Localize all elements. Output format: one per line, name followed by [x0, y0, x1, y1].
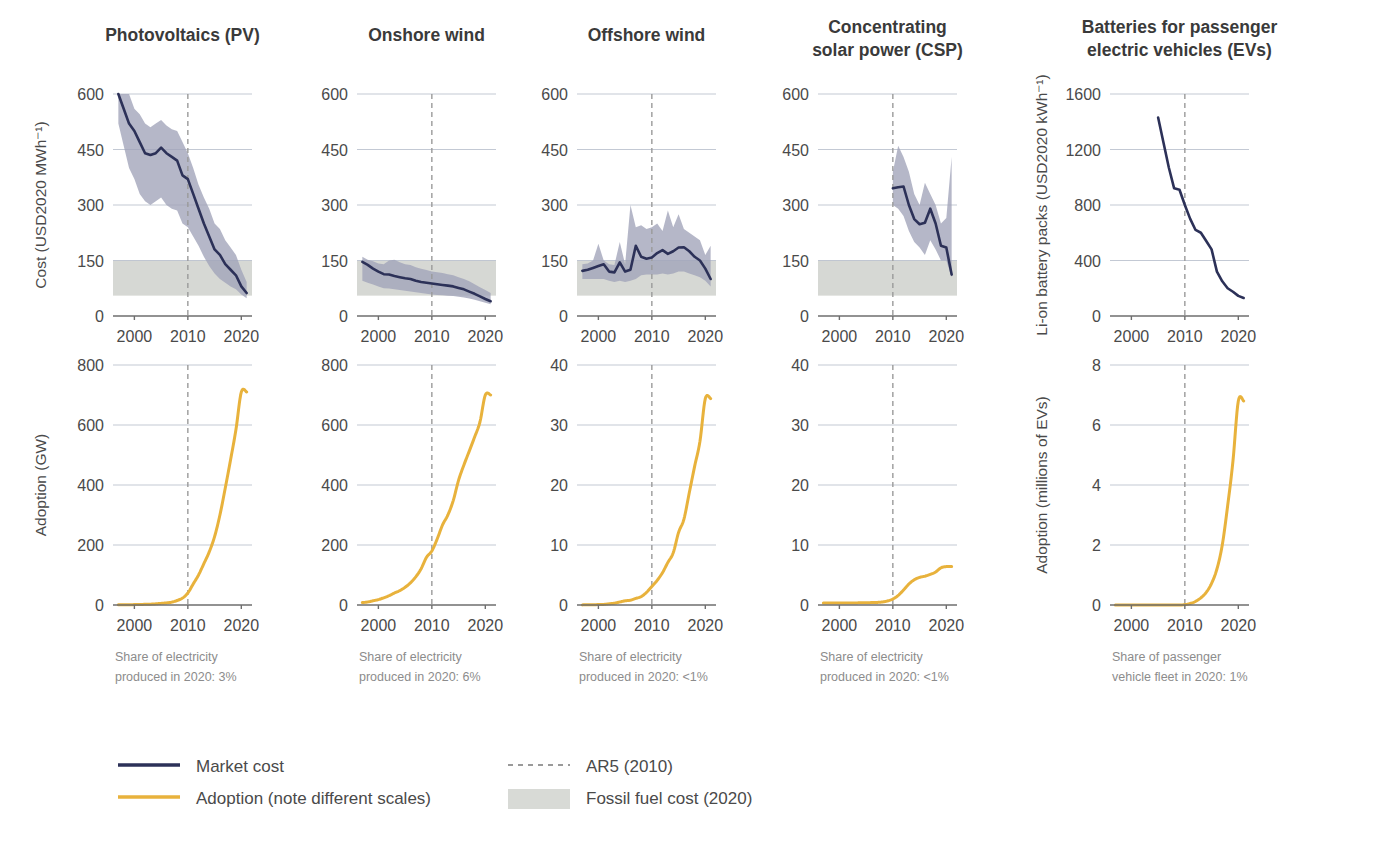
- multi-panel-chart: Photovoltaics (PV)2000201020200150300450…: [0, 0, 1373, 851]
- y-tick-label-adoption: 2: [1092, 537, 1101, 554]
- x-tick-label-cost: 2010: [634, 328, 670, 345]
- y-tick-label-cost: 600: [541, 86, 568, 103]
- cost-chart-pv: 2000201020200150300450600: [77, 86, 259, 345]
- y-tick-label-cost: 0: [339, 308, 348, 325]
- legend-label-market-cost: Market cost: [196, 757, 284, 776]
- panel-footnote-line2: produced in 2020: 3%: [115, 670, 237, 684]
- panel-title-csp-line2: solar power (CSP): [812, 40, 963, 60]
- y-tick-label-adoption: 600: [321, 417, 348, 434]
- x-tick-label-cost: 2000: [581, 328, 617, 345]
- y-tick-label-cost: 0: [1092, 308, 1101, 325]
- y-tick-label-adoption: 20: [791, 477, 809, 494]
- y-tick-label-adoption: 0: [339, 597, 348, 614]
- panel-title-csp: Concentrating: [828, 17, 947, 37]
- legend: Market costAdoption (note different scal…: [118, 757, 752, 809]
- y-tick-label-cost: 0: [95, 308, 104, 325]
- x-tick-label-adoption: 2010: [1167, 617, 1203, 634]
- legend-item-adoption: Adoption (note different scales): [118, 789, 431, 808]
- x-tick-label-adoption: 2020: [1221, 617, 1257, 634]
- y-tick-label-cost: 800: [1074, 197, 1101, 214]
- panel-title-ev-batteries-line2: electric vehicles (EVs): [1087, 40, 1272, 60]
- y-tick-label-adoption: 0: [559, 597, 568, 614]
- adoption-chart-onshore-wind: 2000201020200200400600800Share of electr…: [321, 357, 503, 684]
- x-tick-label-cost: 2010: [1167, 328, 1203, 345]
- x-tick-label-adoption: 2000: [581, 617, 617, 634]
- y-tick-label-adoption: 400: [77, 477, 104, 494]
- uncertainty-band: [893, 146, 952, 277]
- y-tick-label-adoption: 40: [550, 357, 568, 374]
- x-tick-label-adoption: 2000: [1114, 617, 1150, 634]
- y-tick-label-cost: 600: [321, 86, 348, 103]
- panel-offshore-wind: Offshore wind200020102020015030045060020…: [541, 25, 723, 684]
- y-tick-label-adoption: 800: [77, 357, 104, 374]
- y-tick-label-adoption: 10: [550, 537, 568, 554]
- y-tick-label-adoption: 0: [95, 597, 104, 614]
- y-tick-label-adoption: 6: [1092, 417, 1101, 434]
- x-tick-label-adoption: 2000: [361, 617, 397, 634]
- y-tick-label-cost: 600: [77, 86, 104, 103]
- y-tick-label-adoption: 10: [791, 537, 809, 554]
- legend-label-adoption: Adoption (note different scales): [196, 789, 431, 808]
- x-tick-label-cost: 2010: [875, 328, 911, 345]
- adoption-line: [1115, 397, 1243, 605]
- x-tick-label-adoption: 2020: [468, 617, 504, 634]
- panel-csp: Concentratingsolar power (CSP)2000201020…: [782, 17, 964, 684]
- adoption-chart-ev-batteries: 20002010202002468Share of passengervehic…: [1092, 357, 1256, 684]
- panel-footnote-line1: Share of electricity: [579, 650, 683, 664]
- y-tick-label-adoption: 8: [1092, 357, 1101, 374]
- x-tick-label-adoption: 2020: [224, 617, 260, 634]
- market-cost-line: [1158, 118, 1244, 298]
- x-tick-label-cost: 2000: [1114, 328, 1150, 345]
- panel-ev-batteries: Batteries for passengerelectric vehicles…: [1065, 17, 1277, 684]
- y-tick-label-cost: 400: [1074, 253, 1101, 270]
- y-tick-label-cost: 150: [782, 253, 809, 270]
- y-tick-label-adoption: 30: [791, 417, 809, 434]
- x-tick-label-cost: 2020: [468, 328, 504, 345]
- panel-footnote-line1: Share of passenger: [1112, 650, 1221, 664]
- y-axis-label-battery: Li-on battery packs (USD2020 kWh⁻¹): [1033, 74, 1050, 335]
- adoption-line: [118, 389, 246, 605]
- panel-title-pv: Photovoltaics (PV): [105, 25, 260, 45]
- cost-chart-ev-batteries: 200020102020040080012001600: [1065, 86, 1256, 345]
- y-tick-label-cost: 450: [321, 142, 348, 159]
- panel-footnote-line2: produced in 2020: 6%: [359, 670, 481, 684]
- cost-chart-csp: 2000201020200150300450600: [782, 86, 964, 345]
- y-axis-label-adoption-ev: Adoption (millions of EVs): [1033, 396, 1050, 573]
- panel-footnote-line1: Share of electricity: [115, 650, 219, 664]
- legend-item-ar5: AR5 (2010): [508, 757, 673, 776]
- y-tick-label-cost: 600: [782, 86, 809, 103]
- adoption-line: [823, 567, 951, 603]
- y-tick-label-cost: 450: [541, 142, 568, 159]
- legend-item-fossil-fuel: Fossil fuel cost (2020): [508, 789, 752, 809]
- panel-pv: Photovoltaics (PV)2000201020200150300450…: [77, 25, 260, 684]
- x-tick-label-cost: 2020: [1221, 328, 1257, 345]
- y-axis-label-adoption-gw: Adoption (GW): [32, 434, 49, 537]
- y-tick-label-cost: 150: [541, 253, 568, 270]
- x-tick-label-cost: 2020: [224, 328, 260, 345]
- y-tick-label-cost: 1200: [1065, 142, 1101, 159]
- legend-item-market-cost: Market cost: [118, 757, 284, 776]
- x-tick-label-adoption: 2020: [688, 617, 724, 634]
- x-tick-label-cost: 2020: [929, 328, 965, 345]
- y-tick-label-adoption: 0: [1092, 597, 1101, 614]
- y-tick-label-cost: 300: [782, 197, 809, 214]
- x-tick-label-adoption: 2010: [875, 617, 911, 634]
- y-tick-label-cost: 0: [800, 308, 809, 325]
- legend-swatch-fossil-fuel: [508, 789, 570, 809]
- x-tick-label-adoption: 2010: [414, 617, 450, 634]
- panel-title-onshore-wind: Onshore wind: [368, 25, 485, 45]
- cost-chart-onshore-wind: 2000201020200150300450600: [321, 86, 503, 345]
- legend-label-fossil-fuel: Fossil fuel cost (2020): [586, 789, 752, 808]
- y-tick-label-cost: 300: [321, 197, 348, 214]
- panel-footnote-line2: produced in 2020: <1%: [579, 670, 708, 684]
- y-tick-label-adoption: 400: [321, 477, 348, 494]
- y-tick-label-adoption: 600: [77, 417, 104, 434]
- adoption-chart-offshore-wind: 200020102020010203040Share of electricit…: [550, 357, 723, 684]
- y-tick-label-adoption: 200: [77, 537, 104, 554]
- y-tick-label-adoption: 0: [800, 597, 809, 614]
- x-tick-label-adoption: 2010: [634, 617, 670, 634]
- y-tick-label-adoption: 20: [550, 477, 568, 494]
- x-tick-label-adoption: 2000: [822, 617, 858, 634]
- x-tick-label-adoption: 2000: [117, 617, 153, 634]
- panel-footnote-line2: produced in 2020: <1%: [820, 670, 949, 684]
